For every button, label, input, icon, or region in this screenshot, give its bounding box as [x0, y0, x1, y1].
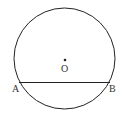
circle-diagram: O A B — [0, 0, 124, 121]
center-label: O — [61, 63, 68, 74]
point-a-label: A — [12, 83, 20, 94]
point-b-label: B — [109, 83, 116, 94]
center-point — [64, 59, 67, 62]
circle — [14, 8, 115, 109]
